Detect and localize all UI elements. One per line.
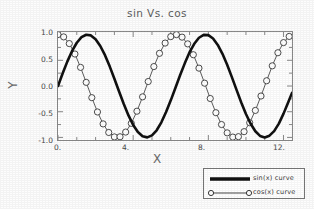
cos-marker (83, 79, 89, 85)
cos-marker (213, 110, 219, 116)
cos-marker (145, 78, 151, 84)
plot-svg (58, 32, 292, 140)
y-tick-label: -1.0 (23, 136, 53, 145)
cos-marker (185, 41, 191, 47)
cos-marker (196, 65, 202, 71)
cos-marker (89, 95, 95, 101)
cos-marker (224, 130, 230, 136)
cos-marker (66, 40, 72, 46)
cos-marker (123, 129, 129, 135)
cos-marker (151, 63, 157, 69)
cos-marker (117, 134, 123, 140)
y-tick-label: 0.5 (23, 55, 53, 64)
cos-marker (218, 121, 224, 127)
cos-marker (207, 95, 213, 101)
cos-marker (162, 40, 168, 46)
cos-marker (106, 129, 112, 135)
cos-marker (61, 34, 67, 40)
cos-marker (275, 50, 281, 56)
cos-marker (202, 80, 208, 86)
cos-marker (264, 78, 270, 84)
sin-curve-line (58, 35, 292, 138)
cos-marker (139, 94, 145, 100)
cos-marker (235, 134, 241, 140)
legend-item-cos[interactable]: cos(x) curve (204, 184, 304, 199)
legend-label-cos: cos(x) curve (253, 188, 296, 196)
y-tick-label: 0.0 (23, 82, 53, 91)
y-tick-label: 1.0 (23, 28, 53, 37)
y-tick-label: -0.5 (23, 109, 53, 118)
legend-item-sin[interactable]: sin(x) curve (204, 170, 304, 185)
cos-marker (100, 121, 106, 127)
cos-marker (286, 33, 292, 39)
chart-title: sin Vs. cos (0, 7, 314, 19)
cos-marker (190, 52, 196, 58)
legend-swatch-sin (207, 171, 253, 185)
cos-marker (269, 63, 275, 69)
plot-area (57, 31, 293, 141)
cos-marker (77, 64, 83, 70)
cos-marker (134, 108, 140, 114)
cos-marker (280, 39, 286, 45)
x-tick-label: 8. (198, 143, 205, 152)
x-tick-label: 0. (54, 143, 61, 152)
x-tick-label: 4. (122, 143, 129, 152)
chart-legend[interactable]: sin(x) curve cos(x) curve (203, 168, 305, 199)
y-axis-title: Y (6, 81, 20, 88)
cos-marker (258, 93, 264, 99)
cos-marker (252, 107, 258, 113)
chart-canvas: sin Vs. cos Y X 1.0 0.5 0.0 -0.5 -1.0 0.… (0, 0, 314, 209)
legend-swatch-cos (207, 185, 253, 199)
cos-marker (156, 50, 162, 56)
cos-marker (94, 109, 100, 115)
x-axis-title: X (0, 152, 314, 166)
x-tick-label: 12. (273, 143, 285, 152)
cos-marker (241, 129, 247, 135)
cos-curve-line (58, 35, 289, 138)
legend-label-sin: sin(x) curve (253, 174, 294, 182)
cos-marker (179, 34, 185, 40)
